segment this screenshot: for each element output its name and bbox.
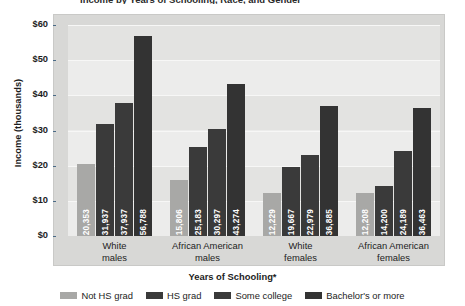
y-tick-mark [53,236,56,237]
group-label-line: males [68,252,161,264]
y-tick-label: $0 [14,230,48,240]
bar[interactable]: 15,806 [170,180,188,236]
y-tick-mark [53,166,56,167]
x-axis-group-label: African Americanfemales [347,240,440,263]
bar[interactable]: 24,189 [394,151,412,236]
bar-value-label: 36,463 [418,209,427,235]
chart-legend: Not HS gradHS gradSome collegeBachelor's… [0,290,465,301]
legend-color-swatch [305,292,322,299]
legend-item[interactable]: HS grad [146,290,201,301]
group-label-line: females [254,252,347,264]
x-axis-group-label: Whitemales [68,240,161,263]
bar[interactable]: 31,937 [96,124,114,236]
y-tick-mark [53,131,56,132]
bar-value-label: 12,208 [360,209,369,235]
group-label-line: White [68,240,161,252]
chart-title: Income by Years of Schooling, Race, and … [80,0,400,4]
y-tick-label: $10 [14,195,48,205]
bar[interactable]: 25,183 [189,147,207,236]
y-tick-mark [53,60,56,61]
bar-value-label: 25,183 [193,209,202,235]
gridline [68,60,440,61]
y-tick-label: $20 [14,160,48,170]
legend-color-swatch [60,292,77,299]
bar[interactable]: 56,788 [134,36,152,236]
bar-value-label: 15,806 [174,209,183,235]
group-label-line: females [347,252,440,264]
legend-item[interactable]: Some college [214,290,292,301]
y-axis-ticks: $0$10$20$30$40$50$60 [8,0,48,306]
bar-value-label: 24,189 [399,209,408,235]
bar[interactable]: 12,208 [356,193,374,236]
bar-value-label: 56,788 [139,209,148,235]
bar[interactable]: 20,353 [77,164,95,236]
bar-value-label: 31,937 [100,209,109,235]
y-tick-mark [53,201,56,202]
y-tick-label: $40 [14,89,48,99]
legend-label: Not HS grad [81,290,133,301]
gridline [68,25,440,26]
group-label-line: White [254,240,347,252]
y-tick-label: $50 [14,54,48,64]
bar[interactable]: 43,274 [227,84,245,236]
y-tick-label: $60 [14,19,48,29]
bar-value-label: 12,229 [267,209,276,235]
x-axis-group-label: African Americanmales [161,240,254,263]
legend-label: Some college [235,290,292,301]
bar[interactable]: 22,979 [301,155,319,236]
gridline [68,95,440,96]
x-axis-group-label: Whitefemales [254,240,347,263]
bar-value-label: 14,200 [379,209,388,235]
legend-item[interactable]: Not HS grad [60,290,133,301]
bar[interactable]: 12,229 [263,193,281,236]
legend-label: HS grad [167,290,201,301]
chart-figure: Income by Years of Schooling, Race, and … [0,0,465,306]
legend-color-swatch [214,292,231,299]
y-tick-mark [53,25,56,26]
bar-value-label: 22,979 [306,209,315,235]
group-label-line: males [161,252,254,264]
bar[interactable]: 36,885 [320,106,338,236]
plot-area: 20,35331,93737,93756,78815,80625,18330,2… [68,25,440,236]
legend-color-swatch [146,292,163,299]
bar[interactable]: 36,463 [413,108,431,236]
bar[interactable]: 37,937 [115,103,133,236]
bar[interactable]: 19,667 [282,167,300,236]
x-axis-title: Years of Schooling* [0,271,465,282]
legend-label: Bachelor's or more [326,290,404,301]
bar[interactable]: 30,297 [208,129,226,236]
group-label-line: African American [161,240,254,252]
bar-value-label: 37,937 [120,209,129,235]
bar-value-label: 43,274 [232,209,241,235]
y-tick-label: $30 [14,125,48,135]
group-label-line: African American [347,240,440,252]
bar-value-label: 36,885 [325,209,334,235]
bar-value-label: 20,353 [81,209,90,235]
bar[interactable]: 14,200 [375,186,393,236]
y-tick-mark [53,95,56,96]
bar-value-label: 19,667 [286,209,295,235]
bar-value-label: 30,297 [213,209,222,235]
legend-item[interactable]: Bachelor's or more [305,290,404,301]
plot-background-band [68,25,440,60]
